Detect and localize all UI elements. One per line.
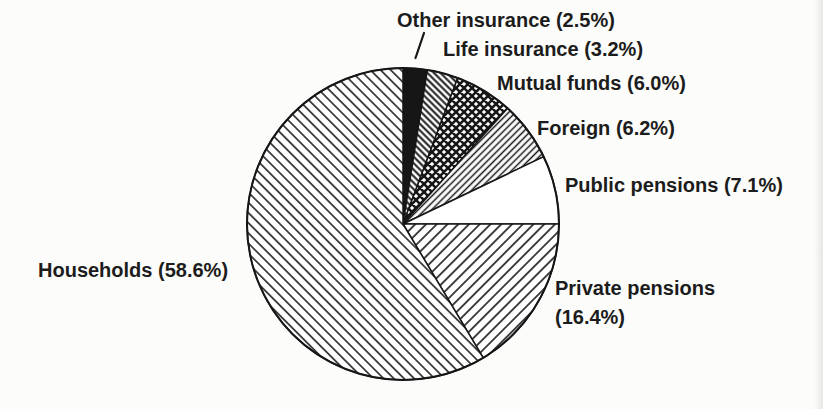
pie-slices-group: [247, 68, 559, 380]
pie-chart-figure: Other insurance (2.5%) Life insurance (3…: [0, 0, 823, 409]
label-other-insurance: Other insurance (2.5%): [397, 8, 615, 32]
label-foreign: Foreign (6.2%): [537, 116, 675, 140]
label-households: Households (58.6%): [38, 258, 228, 282]
label-life-insurance: Life insurance (3.2%): [443, 37, 643, 61]
label-public-pensions: Public pensions (7.1%): [565, 173, 783, 197]
label-mutual-funds: Mutual funds (6.0%): [497, 71, 686, 95]
leader-line-other-insurance: [416, 33, 425, 58]
label-private-pensions: Private pensions (16.4%): [555, 274, 727, 332]
pie-chart: [0, 0, 823, 409]
